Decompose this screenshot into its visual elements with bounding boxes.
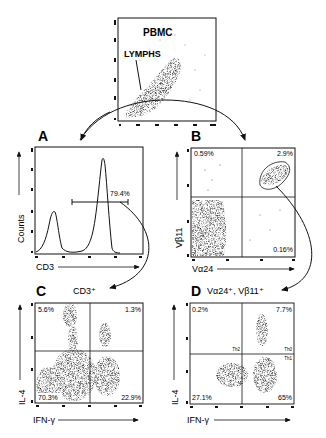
c-ul-percent: 5.6% [38, 306, 54, 313]
panel-b-scatter: B 0.59% 2.9% 0.16% Vβ11 Vα24 [174, 128, 295, 274]
counts-axis-label: Counts [16, 214, 26, 243]
panel-c-letter: C [36, 283, 46, 299]
c-il4-axis-label: IL-4 [17, 389, 27, 405]
d-ur-percent: 7.7% [276, 306, 292, 313]
b-ur-percent: 2.9% [277, 150, 293, 157]
c-ll-percent: 70.3% [38, 394, 58, 401]
th1-label: Th1 [284, 356, 292, 361]
arrow-to-a [81, 112, 110, 140]
va24-axis-label: Vα24 [192, 264, 213, 274]
b-ul-percent: 0.59% [194, 150, 214, 157]
d-ul-percent: 0.2% [192, 306, 208, 313]
c-ur-percent: 1.3% [125, 306, 141, 313]
panel-d-scatter: D Vα24⁺, Vβ11⁺ 0.2% 7.7% 27.1% 65% Th2 T… [170, 283, 294, 425]
d-lr-percent: 65% [278, 394, 292, 401]
figure-canvas: PBMC LYMPHS A 79.4% Counts CD3 B [0, 0, 326, 438]
panel-a-letter: A [38, 128, 48, 144]
b-lr-percent: 0.16% [273, 246, 293, 253]
d-ifng-axis-label: IFN-γ [187, 415, 209, 425]
panel-c-scatter: C CD3⁺ 5.6% 1.3% 70.3% 22.9% IL-4 IFN-γ [17, 283, 143, 425]
panel-b-letter: B [191, 128, 201, 144]
th2-label: Th2 [232, 347, 240, 352]
panel-c-subtitle: CD3⁺ [73, 286, 96, 296]
cd3-gate-percent: 79.4% [110, 190, 130, 197]
d-il4-axis-label: IL-4 [170, 389, 180, 405]
panel-d-subtitle: Vα24⁺, Vβ11⁺ [207, 286, 264, 296]
panel-a-histogram: A 79.4% Counts CD3 [16, 128, 143, 272]
panel-d-letter: D [191, 283, 201, 299]
d-ll-percent: 27.1% [192, 394, 212, 401]
c-ifng-axis-label: IFN-γ [33, 415, 55, 425]
pbmc-title: PBMC [143, 27, 172, 38]
cd3-axis-label: CD3 [36, 262, 54, 272]
c-lr-percent: 22.9% [121, 394, 141, 401]
vb11-axis-label: Vβ11 [174, 227, 184, 248]
pbmc-scatter-plot: PBMC LYMPHS [114, 18, 216, 126]
th0-label: Th0 [284, 347, 292, 352]
lymphs-gate-label: LYMPHS [124, 49, 161, 59]
